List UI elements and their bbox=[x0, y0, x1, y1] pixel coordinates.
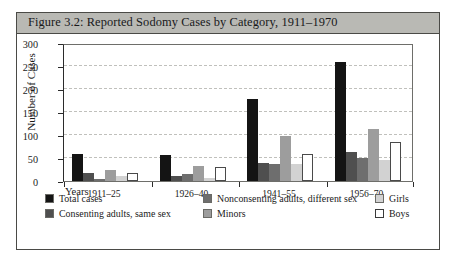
legend-label: Nonconsenting adults, different sex bbox=[217, 194, 357, 204]
legend-swatch bbox=[45, 209, 54, 218]
bar-group bbox=[160, 45, 226, 181]
bar-group bbox=[247, 45, 313, 181]
bar bbox=[182, 174, 193, 181]
bar bbox=[258, 163, 269, 181]
bar-group bbox=[72, 45, 138, 181]
bar bbox=[291, 164, 302, 181]
legend-swatch bbox=[375, 194, 384, 203]
legend-label: Total cases bbox=[59, 194, 102, 204]
legend-item: Consenting adults, same sex bbox=[45, 209, 171, 219]
x-tick-mark bbox=[327, 182, 328, 187]
bar bbox=[105, 170, 116, 181]
bar bbox=[204, 178, 215, 181]
bar bbox=[280, 136, 291, 181]
y-tick-label: 150 bbox=[23, 108, 38, 119]
y-tick-label: 250 bbox=[23, 62, 38, 73]
bar bbox=[346, 152, 357, 181]
legend-label: Consenting adults, same sex bbox=[59, 209, 171, 219]
figure-container: Figure 3.2: Reported Sodomy Cases by Cat… bbox=[16, 12, 440, 250]
bar bbox=[127, 173, 138, 181]
bar bbox=[193, 166, 204, 181]
bar bbox=[83, 173, 94, 181]
y-tick-label: 100 bbox=[23, 131, 38, 142]
bar bbox=[368, 129, 379, 181]
bar bbox=[302, 154, 313, 181]
legend-item: Nonconsenting adults, different sex bbox=[203, 194, 357, 204]
legend-swatch bbox=[375, 209, 384, 218]
x-tick-mark bbox=[413, 182, 414, 187]
legend-swatch bbox=[203, 194, 212, 203]
legend-item: Minors bbox=[203, 209, 246, 219]
y-tick-mark bbox=[58, 182, 63, 183]
bar bbox=[357, 158, 368, 181]
bar bbox=[269, 164, 280, 181]
legend-swatch bbox=[45, 194, 54, 203]
bar bbox=[215, 167, 226, 181]
legend-item: Total cases bbox=[45, 194, 102, 204]
figure-title-band: Figure 3.2: Reported Sodomy Cases by Cat… bbox=[17, 13, 439, 34]
bar bbox=[171, 176, 182, 181]
bar bbox=[335, 62, 346, 181]
bar bbox=[72, 154, 83, 181]
x-tick-mark bbox=[239, 182, 240, 187]
y-tick-label: 0 bbox=[33, 177, 38, 188]
legend-item: Girls bbox=[375, 194, 409, 204]
x-tick-mark bbox=[152, 182, 153, 187]
y-tick-label: 300 bbox=[23, 39, 38, 50]
legend-label: Boys bbox=[389, 209, 409, 219]
bar bbox=[247, 99, 258, 181]
bar-group bbox=[335, 45, 401, 181]
bar bbox=[379, 160, 390, 181]
y-tick-label: 200 bbox=[23, 85, 38, 96]
bar bbox=[116, 176, 127, 181]
legend-swatch bbox=[203, 209, 212, 218]
bar bbox=[390, 142, 401, 181]
figure-title: Figure 3.2: Reported Sodomy Cases by Cat… bbox=[28, 15, 338, 30]
legend-label: Girls bbox=[389, 194, 409, 204]
bar bbox=[160, 155, 171, 181]
legend-label: Minors bbox=[217, 209, 246, 219]
y-tick-label: 50 bbox=[28, 154, 38, 165]
bar bbox=[94, 179, 105, 181]
plot-area bbox=[63, 44, 413, 182]
legend-item: Boys bbox=[375, 209, 409, 219]
